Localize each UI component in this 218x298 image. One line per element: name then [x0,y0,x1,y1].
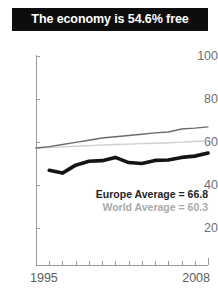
chart-series-svg [0,0,218,298]
country-score-line [49,153,208,173]
legend-europe-average: Europe Average = 66.8 [96,188,208,201]
chart-legend: Europe Average = 66.8 World Average = 60… [96,188,208,215]
legend-world-average: World Average = 60.3 [96,201,208,214]
economic-freedom-chart-card: The economy is 54.6% free 100 80 60 40 2… [0,0,218,298]
